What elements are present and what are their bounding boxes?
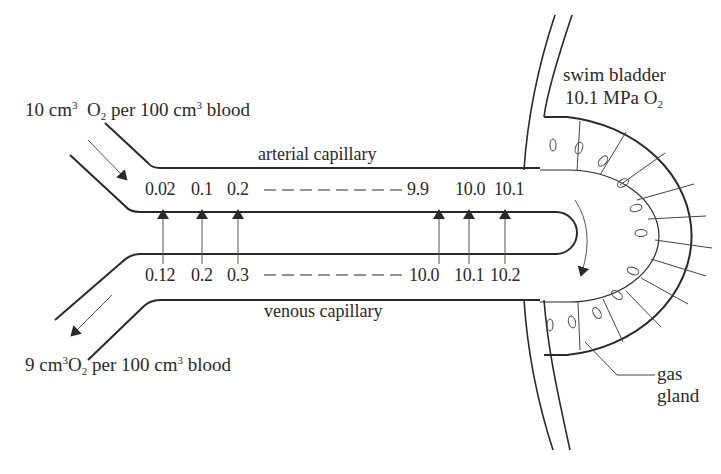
venous-value: 10.0 [409,266,439,284]
venous-value: 10.1 [454,266,484,284]
arterial-value: 9.9 [407,180,429,198]
swim-bladder-pressure: 10.1 MPa O2 [565,88,663,110]
venous-value: 0.2 [191,266,213,284]
gas-gland-label-1: gas [657,364,682,383]
arterial-value: 10.1 [494,180,524,198]
inflow-label: 10 cm3 O2 per 100 cm3 blood [25,100,250,122]
venous-value: 10.2 [490,266,520,284]
gas-gland [540,117,712,375]
outflow-label: 9 cm3O2 per 100 cm3 blood [25,355,231,377]
arterial-value: 0.2 [227,180,249,198]
gas-gland-label-2: gland [657,386,699,405]
venous-capillary-label: venous capillary [264,302,382,320]
arterial-value: 10.0 [455,180,485,198]
venous-value: 0.3 [227,266,249,284]
arterial-value: 0.1 [191,180,213,198]
diffusion-arrows [163,214,505,264]
venous-value: 0.12 [145,266,175,284]
rete-mirabile-diagram: 10 cm3 O2 per 100 cm3 blood 9 cm3O2 per … [0,0,721,474]
swim-bladder-label: swim bladder [563,65,666,84]
arterial-value: 0.02 [145,180,175,198]
dashed-continuation [264,190,405,275]
arterial-capillary-label: arterial capillary [258,145,376,163]
